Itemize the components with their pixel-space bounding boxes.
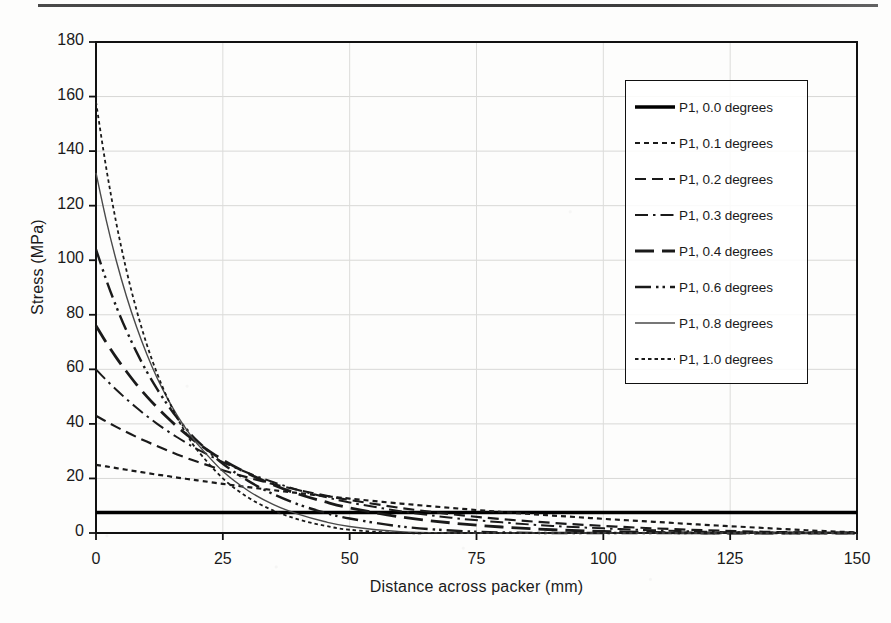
legend-item[interactable]: P1, 0.6 degrees	[634, 275, 807, 299]
stress-distance-chart-figure: 020406080100120140160180 025507510012515…	[0, 0, 891, 623]
legend-item-label: P1, 0.0 degrees	[679, 100, 773, 115]
legend-items: P1, 0.0 degreesP1, 0.1 degreesP1, 0.2 de…	[626, 81, 807, 383]
y-tick-label: 140	[40, 140, 84, 158]
legend-line-swatch-icon	[634, 100, 676, 114]
legend-item-label: P1, 0.1 degrees	[679, 136, 773, 151]
legend-line-swatch-icon	[634, 352, 676, 366]
legend-item[interactable]: P1, 0.0 degrees	[634, 95, 807, 119]
legend-line-swatch-icon	[634, 208, 676, 222]
legend-item[interactable]: P1, 0.2 degrees	[634, 167, 807, 191]
legend-item[interactable]: P1, 0.4 degrees	[634, 239, 807, 263]
y-tick-label: 40	[40, 413, 84, 431]
legend-item[interactable]: P1, 0.8 degrees	[634, 311, 807, 335]
legend-item-label: P1, 0.3 degrees	[679, 208, 773, 223]
x-tick-label: 0	[66, 550, 126, 568]
legend-line-swatch-icon	[634, 280, 676, 294]
y-tick-label: 20	[40, 467, 84, 485]
x-tick-label: 50	[320, 550, 380, 568]
y-tick-label: 160	[40, 86, 84, 104]
legend-item-label: P1, 0.8 degrees	[679, 316, 773, 331]
x-tick-label: 25	[193, 550, 253, 568]
x-tick-label: 125	[700, 550, 760, 568]
x-tick-label: 100	[573, 550, 633, 568]
legend-item[interactable]: P1, 0.3 degrees	[634, 203, 807, 227]
x-tick-label: 75	[447, 550, 507, 568]
x-axis-tick-labels: 0255075100125150	[0, 540, 891, 568]
y-tick-label: 180	[40, 31, 84, 49]
legend-item[interactable]: P1, 1.0 degrees	[634, 347, 807, 371]
legend-item-label: P1, 0.2 degrees	[679, 172, 773, 187]
y-axis-title: Stress (MPa)	[29, 167, 47, 367]
legend-item[interactable]: P1, 0.1 degrees	[634, 131, 807, 155]
x-tick-label: 150	[827, 550, 887, 568]
legend-line-swatch-icon	[634, 136, 676, 150]
legend-item-label: P1, 0.6 degrees	[679, 280, 773, 295]
y-tick-label: 0	[40, 522, 84, 540]
legend-line-swatch-icon	[634, 244, 676, 258]
legend-box: P1, 0.0 degreesP1, 0.1 degreesP1, 0.2 de…	[625, 80, 808, 384]
x-axis-title: Distance across packer (mm)	[96, 578, 857, 596]
legend-item-label: P1, 0.4 degrees	[679, 244, 773, 259]
legend-item-label: P1, 1.0 degrees	[679, 352, 773, 367]
legend-line-swatch-icon	[634, 172, 676, 186]
legend-line-swatch-icon	[634, 316, 676, 330]
